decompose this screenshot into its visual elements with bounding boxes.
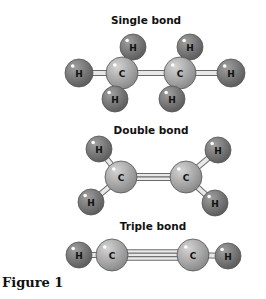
carbon-atom: C: [106, 57, 138, 89]
hydrogen-atom: H: [202, 190, 228, 216]
single-bond-title: Single bond: [111, 14, 181, 26]
hydrogen-atom: H: [217, 59, 245, 87]
atom-symbol: H: [87, 198, 95, 208]
atom-symbol: H: [214, 146, 222, 156]
atom-symbol: C: [118, 173, 125, 183]
carbon-atom: C: [164, 57, 196, 89]
triple-bond-title: Triple bond: [120, 220, 186, 232]
hydrogen-atom: H: [86, 136, 112, 162]
atom-symbol: H: [168, 95, 176, 105]
carbon-atom: C: [105, 161, 137, 193]
bond-diagram: HHHCCHHHHHCCHHHCCH Single bond Double bo…: [0, 0, 266, 299]
double-bond-title: Double bond: [113, 124, 188, 136]
atom-symbol: C: [190, 251, 197, 261]
atom-symbol: H: [95, 145, 103, 155]
hydrogen-atom: H: [215, 243, 241, 269]
atom-symbol: C: [119, 69, 126, 79]
carbon-atom: C: [170, 161, 202, 193]
atom-symbol: C: [183, 173, 190, 183]
hydrogen-atom: H: [159, 86, 185, 112]
hydrogen-atom: H: [66, 242, 92, 268]
atom-symbol: H: [227, 69, 235, 79]
hydrogen-atom: H: [102, 86, 128, 112]
hydrogen-atom: H: [205, 137, 231, 163]
atom-symbol: H: [129, 43, 137, 53]
hydrogen-atom: H: [65, 59, 93, 87]
figure-label: Figure 1: [2, 275, 63, 290]
molecule-drawing: HHHCCHHHHHCCHHHCCH: [0, 0, 266, 299]
atom-symbol: H: [211, 199, 219, 209]
hydrogen-atom: H: [177, 34, 203, 60]
carbon-atom: C: [96, 239, 128, 271]
hydrogen-atom: H: [120, 34, 146, 60]
hydrogen-atom: H: [78, 189, 104, 215]
atom-symbol: C: [109, 251, 116, 261]
carbon-atom: C: [177, 239, 209, 271]
atom-symbol: H: [224, 252, 232, 262]
atom-symbol: H: [75, 69, 83, 79]
atom-symbol: C: [177, 69, 184, 79]
atom-symbol: H: [186, 43, 194, 53]
atom-symbol: H: [75, 251, 83, 261]
atom-symbol: H: [111, 95, 119, 105]
